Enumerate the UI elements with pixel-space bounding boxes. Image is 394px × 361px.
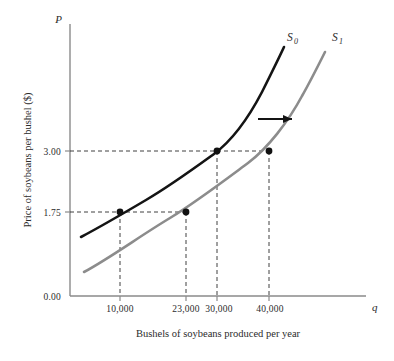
point-s0-1750	[117, 209, 124, 216]
y-tick-label-000: 0.00	[44, 292, 61, 302]
y-axis-title: Price of soybeans per bushel ($)	[22, 92, 34, 228]
y-tick-label-300: 3.00	[44, 147, 61, 157]
curve-label-s0-subscript: 0	[294, 37, 298, 46]
curve-label-s0: S	[287, 31, 293, 43]
axes	[70, 24, 366, 296]
curve-label-s1-subscript: 1	[339, 37, 343, 46]
y-axis-variable-label: P	[54, 13, 62, 25]
guide-lines	[70, 151, 269, 296]
point-s0-3000	[214, 148, 221, 155]
curve-label-s1-group: S 1	[332, 31, 343, 46]
x-tick-label-10000: 10,000	[106, 304, 133, 314]
x-axis-variable-label: q	[372, 301, 378, 313]
point-s1-3000	[266, 148, 273, 155]
x-tick-label-40000: 40,000	[256, 304, 283, 314]
data-point-markers	[117, 148, 273, 216]
x-tick-label-30000: 30,000	[205, 304, 232, 314]
x-tick-label-23000: 23,000	[172, 304, 199, 314]
y-ticks	[65, 151, 70, 212]
point-s1-1750	[183, 209, 190, 216]
x-ticks	[120, 296, 269, 301]
curve-label-s0-group: S 0	[287, 31, 298, 46]
curve-label-s1: S	[332, 31, 338, 43]
supply-curve-figure: P q 3.00 1.75 0.00 10,000 23,000 30,000 …	[0, 0, 394, 361]
x-axis-title: Bushels of soybeans produced per year	[136, 328, 301, 339]
y-tick-label-175: 1.75	[44, 208, 61, 218]
